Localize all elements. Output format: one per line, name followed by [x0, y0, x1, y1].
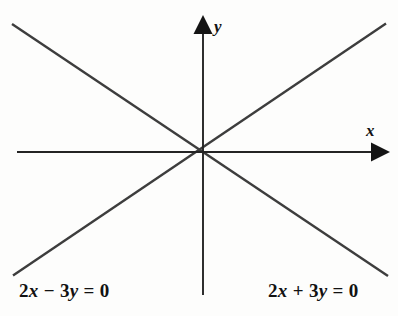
x-axis-label: x: [366, 122, 375, 139]
equation-label-right: 2x + 3y = 0: [268, 281, 359, 300]
eq-right-var-y: y: [319, 280, 328, 301]
eq-left-var-x: x: [29, 280, 39, 301]
y-axis-label: y: [214, 18, 222, 35]
eq-left-coef-x: 2: [19, 280, 29, 301]
eq-left-var-y: y: [70, 280, 79, 301]
eq-right-coef-y: 3: [309, 280, 319, 301]
coordinate-plane-svg: [0, 0, 398, 316]
graph-figure: y x 2x − 3y = 0 2x + 3y = 0: [0, 0, 398, 316]
eq-right-operator: +: [293, 280, 304, 301]
eq-left-coef-y: 3: [60, 280, 70, 301]
eq-right-equals: =: [333, 280, 344, 301]
eq-left-rhs: 0: [100, 280, 110, 301]
x-axis-arrowhead: [371, 143, 390, 162]
eq-right-rhs: 0: [349, 280, 359, 301]
equation-label-left: 2x − 3y = 0: [19, 281, 110, 300]
eq-right-var-x: x: [278, 280, 288, 301]
eq-right-coef-x: 2: [268, 280, 278, 301]
eq-left-operator: −: [44, 280, 55, 301]
eq-left-equals: =: [84, 280, 95, 301]
y-axis-arrowhead: [194, 15, 213, 34]
